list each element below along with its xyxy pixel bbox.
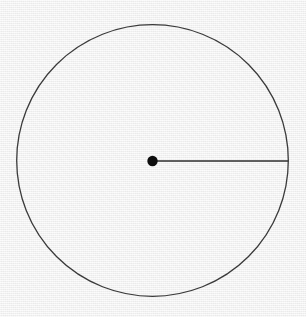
center-point-dot [147, 156, 157, 166]
circle-diagram [0, 0, 306, 317]
figure-canvas: Circle with radius A plain circle outlin… [0, 0, 306, 317]
